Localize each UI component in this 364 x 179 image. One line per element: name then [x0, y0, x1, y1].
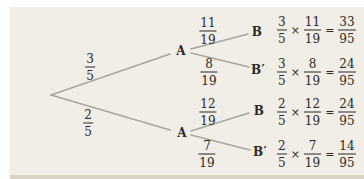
- branch-root-to-a-bottom: [51, 95, 170, 130]
- calc-fraction-2: 12 19: [304, 98, 321, 127]
- node-b-top: B: [252, 26, 262, 38]
- calculation-row-1: 3 5 × 11 19 = 33 95: [277, 16, 356, 45]
- multiply-sign: ×: [290, 107, 301, 118]
- equals-sign: =: [324, 25, 335, 36]
- fraction-denominator: 19: [199, 112, 216, 127]
- probability-a-top-to-b: 11 19: [199, 17, 216, 46]
- calc-fraction-2: 8 19: [304, 58, 321, 87]
- calc-result-fraction: 14 95: [338, 140, 355, 169]
- equals-sign: =: [324, 67, 335, 78]
- probability-a-bottom-to-b: 12 19: [199, 98, 216, 127]
- calc-fraction-2: 7 19: [304, 140, 321, 169]
- node-b-prime-top: B′: [251, 64, 265, 76]
- node-b-bottom: B: [254, 105, 264, 117]
- fraction-numerator: 7: [202, 140, 212, 154]
- calc-result-fraction: 24 95: [338, 98, 355, 127]
- probability-a-bottom-to-b-prime: 7 19: [198, 140, 215, 169]
- multiply-sign: ×: [290, 67, 301, 78]
- calculation-row-3: 2 5 × 12 19 = 24 95: [277, 98, 356, 127]
- node-a-top: A: [176, 45, 186, 57]
- probability-tree-figure: 3 5 2 5 11 19 8 19 12 19 7 19 A A B B′ B…: [0, 0, 364, 179]
- fraction-numerator: 2: [83, 109, 93, 123]
- node-a-bottom: A: [177, 127, 187, 139]
- calc-fraction-2: 11 19: [304, 16, 321, 45]
- probability-root-to-a-bottom: 2 5: [83, 109, 93, 138]
- calculation-row-2: 3 5 × 8 19 = 24 95: [277, 58, 356, 87]
- fraction-denominator: 19: [199, 31, 216, 46]
- fraction-denominator: 5: [85, 67, 95, 82]
- calc-fraction-1: 3 5: [277, 58, 287, 87]
- fraction-numerator: 3: [85, 53, 95, 67]
- multiply-sign: ×: [290, 149, 301, 160]
- fraction-denominator: 19: [198, 154, 215, 169]
- branch-root-to-a-top: [51, 54, 170, 95]
- node-b-prime-bottom: B′: [253, 146, 267, 158]
- equals-sign: =: [324, 149, 335, 160]
- calc-fraction-1: 2 5: [277, 98, 287, 127]
- fraction-numerator: 12: [199, 98, 216, 112]
- probability-root-to-a-top: 3 5: [85, 53, 95, 82]
- calculation-row-4: 2 5 × 7 19 = 14 95: [277, 140, 356, 169]
- equals-sign: =: [324, 107, 335, 118]
- multiply-sign: ×: [290, 25, 301, 36]
- calc-result-fraction: 33 95: [338, 16, 355, 45]
- fraction-denominator: 5: [83, 123, 93, 138]
- calc-fraction-1: 2 5: [277, 140, 287, 169]
- fraction-denominator: 19: [200, 72, 217, 87]
- probability-a-top-to-b-prime: 8 19: [200, 58, 217, 87]
- fraction-numerator: 8: [204, 58, 214, 72]
- calc-result-fraction: 24 95: [338, 58, 355, 87]
- fraction-numerator: 11: [199, 17, 216, 31]
- calc-fraction-1: 3 5: [277, 16, 287, 45]
